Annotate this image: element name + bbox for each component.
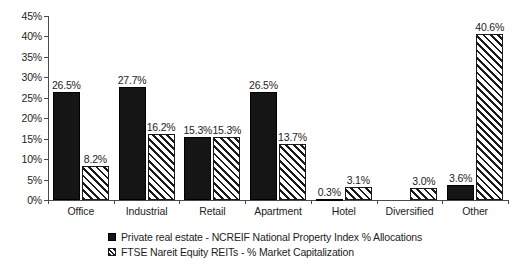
bar <box>345 187 372 200</box>
bar <box>476 34 503 200</box>
x-axis-tick <box>179 200 180 204</box>
legend-label: Private real estate - NCREIF National Pr… <box>121 231 422 243</box>
y-axis-tick <box>44 77 48 78</box>
bar-chart: 0%5%10%15%20%25%30%35%40%45% 26.5%8.2%27… <box>0 0 518 268</box>
y-axis-tick-label: 5% <box>27 174 42 186</box>
y-axis-tick-label: 20% <box>22 112 42 124</box>
x-axis-category-label: Other <box>462 205 488 217</box>
x-axis-category-label: Diversified <box>385 205 433 217</box>
y-axis-tick-label: 40% <box>22 30 42 42</box>
bar-value-label: 27.7% <box>118 74 147 86</box>
x-axis-tick <box>377 200 378 204</box>
y-axis-tick-label: 0% <box>27 194 42 206</box>
chart-legend: Private real estate - NCREIF National Pr… <box>108 230 438 260</box>
legend-swatch-hatch-icon <box>108 248 116 256</box>
y-axis-tick <box>44 98 48 99</box>
y-axis-line <box>48 16 49 200</box>
y-axis-tick <box>44 57 48 58</box>
y-axis-tick <box>44 118 48 119</box>
y-axis-tick-label: 15% <box>22 133 42 145</box>
y-axis-tick <box>44 159 48 160</box>
x-axis-category-label: Hotel <box>332 205 356 217</box>
x-axis-category-label: Retail <box>199 205 225 217</box>
x-axis-tick <box>48 200 49 204</box>
y-axis-tick <box>44 36 48 37</box>
bar <box>410 188 437 200</box>
bar-value-label: 26.5% <box>52 79 81 91</box>
bar <box>279 144 306 200</box>
x-axis-tick <box>311 200 312 204</box>
x-axis-tick <box>508 200 509 204</box>
bar <box>250 92 277 200</box>
legend-item: Private real estate - NCREIF National Pr… <box>108 230 438 243</box>
y-axis-tick-label: 30% <box>22 71 42 83</box>
x-axis-line <box>48 200 508 201</box>
bar-value-label: 3.6% <box>449 172 472 184</box>
bar <box>213 137 240 200</box>
bar <box>82 166 109 200</box>
legend-label: FTSE Nareit Equity REITs - % Market Capi… <box>121 246 354 258</box>
bar-value-label: 26.5% <box>249 79 278 91</box>
y-axis-tick-label: 35% <box>22 51 42 63</box>
x-axis-tick <box>442 200 443 204</box>
plot-area: 0%5%10%15%20%25%30%35%40%45% 26.5%8.2%27… <box>0 0 518 215</box>
x-axis-category-label: Industrial <box>126 205 168 217</box>
bar-value-label: 8.2% <box>84 153 107 165</box>
x-axis-category-label: Office <box>68 205 95 217</box>
bar-value-label: 3.1% <box>347 174 370 186</box>
y-axis-tick-label: 25% <box>22 92 42 104</box>
y-axis-tick <box>44 180 48 181</box>
bar-value-label: 13.7% <box>278 131 307 143</box>
y-axis-tick-label: 10% <box>22 153 42 165</box>
bar-value-label: 15.3% <box>183 124 212 136</box>
bar <box>148 134 175 200</box>
legend-item: FTSE Nareit Equity REITs - % Market Capi… <box>108 245 438 258</box>
x-axis-category-label: Apartment <box>254 205 302 217</box>
bar <box>316 199 343 201</box>
bar-value-label: 15.3% <box>212 124 241 136</box>
bar <box>53 92 80 200</box>
y-axis-tick-label: 45% <box>22 10 42 22</box>
y-axis-tick <box>44 16 48 17</box>
bar-value-label: 0.3% <box>318 186 341 198</box>
bar-value-label: 3.0% <box>412 175 435 187</box>
x-axis-tick <box>114 200 115 204</box>
x-axis-tick <box>245 200 246 204</box>
bar-value-label: 16.2% <box>147 121 176 133</box>
y-axis-tick <box>44 139 48 140</box>
legend-swatch-solid-icon <box>108 233 116 241</box>
bar <box>447 185 474 200</box>
bar-value-label: 40.6% <box>475 21 504 33</box>
bar <box>184 137 211 200</box>
bar <box>119 87 146 200</box>
